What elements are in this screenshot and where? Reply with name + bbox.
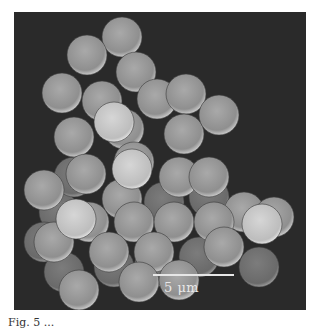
microsphere — [89, 232, 129, 272]
microsphere — [164, 114, 204, 154]
microsphere — [66, 154, 106, 194]
microsphere — [242, 204, 282, 244]
microsphere-cluster — [14, 12, 306, 310]
microsphere — [42, 73, 82, 113]
microsphere — [56, 199, 96, 239]
sem-micrograph: 5 μm — [14, 12, 306, 310]
microsphere — [24, 170, 64, 210]
scale-bar — [153, 274, 234, 276]
microsphere — [59, 270, 99, 310]
microsphere — [189, 157, 229, 197]
figure-caption: Fig. 5 ... — [8, 316, 54, 329]
microsphere — [204, 227, 244, 267]
microsphere — [94, 102, 134, 142]
microsphere — [199, 95, 239, 135]
microsphere — [119, 262, 159, 302]
microsphere — [54, 117, 94, 157]
microsphere — [112, 149, 152, 189]
microsphere — [102, 17, 142, 57]
microsphere — [239, 247, 279, 287]
scale-bar-label: 5 μm — [164, 280, 199, 295]
microsphere — [67, 35, 107, 75]
